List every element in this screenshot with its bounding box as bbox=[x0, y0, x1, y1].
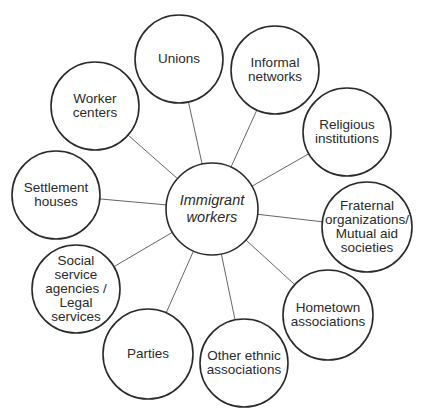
node-label-religious-institutions: Religious institutions bbox=[303, 88, 391, 176]
node-label-fraternal-organizations: Fraternal organizations/ Mutual aid soci… bbox=[322, 182, 412, 272]
node-label-worker-centers: Worker centers bbox=[51, 62, 139, 150]
edge-parties bbox=[166, 251, 193, 313]
edge-informal-networks bbox=[231, 110, 257, 167]
edge-settlement-houses bbox=[100, 199, 166, 205]
edge-other-ethnic-associations bbox=[221, 254, 235, 320]
node-label-immigrant-workers: Immigrant workers bbox=[166, 163, 258, 255]
node-label-settlement-houses: Settlement houses bbox=[12, 151, 100, 239]
edge-fraternal-organizations bbox=[258, 214, 323, 222]
edge-social-service-agencies bbox=[114, 232, 172, 266]
node-label-hometown-associations: Hometown associations bbox=[283, 270, 373, 360]
edge-religious-institutions bbox=[252, 154, 309, 186]
edge-unions bbox=[188, 102, 202, 164]
node-label-social-service-agencies: Social service agencies / Legal services bbox=[32, 245, 120, 333]
node-label-unions: Unions bbox=[135, 15, 223, 103]
node-label-other-ethnic-associations: Other ethnic associations bbox=[200, 319, 288, 407]
